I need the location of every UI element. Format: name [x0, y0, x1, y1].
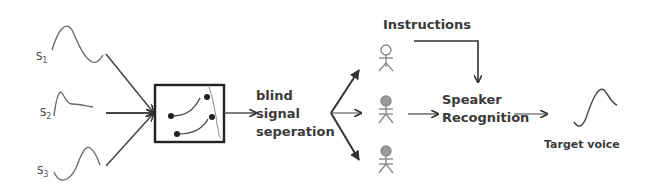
bss-label: blind signal seperation [256, 88, 335, 139]
arrow-bss-to-speaker-1 [331, 70, 359, 113]
speaker-2 [379, 96, 393, 123]
waveform-target [574, 89, 617, 126]
instructions-label: Instructions [383, 17, 471, 32]
source-2: S2 [40, 92, 93, 121]
source-label-s3: S3 [37, 165, 48, 179]
recognition-label: Speaker Recognition [442, 92, 529, 125]
arrow-s1-to-mixer [106, 54, 153, 112]
source-1: S1 [36, 26, 103, 65]
person-icon-hollow [381, 45, 391, 55]
source-3: S3 [37, 147, 100, 180]
arrow-bss-to-speaker-3 [331, 113, 359, 160]
bss-speaker-recognition-diagram: S1 S2 S3 blind signal seperation [0, 0, 669, 194]
speaker-3 [379, 146, 393, 173]
source-label-s2: S2 [40, 107, 51, 121]
arrow-instructions-to-recognition [414, 41, 478, 82]
person-icon-filled [381, 96, 391, 106]
speaker-1 [379, 45, 393, 71]
waveform-s1 [52, 26, 103, 62]
waveform-s2 [54, 92, 93, 116]
person-icon-filled [381, 146, 391, 156]
target-voice-label: Target voice [544, 138, 620, 151]
arrow-s3-to-mixer [106, 114, 153, 166]
waveform-s3 [54, 147, 100, 180]
source-label-s1: S1 [36, 51, 47, 65]
mixer-box [155, 85, 224, 142]
